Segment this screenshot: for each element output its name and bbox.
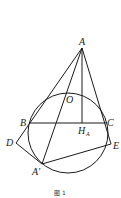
label-D: D (5, 137, 14, 148)
geometry-figure: A O B C H A D E A' 图 1 (0, 0, 121, 198)
label-C: C (107, 117, 114, 128)
line-AE (82, 48, 111, 144)
label-A: A (78, 36, 86, 47)
figure-caption: 图 1 (54, 189, 66, 197)
segment-DA-prime (16, 143, 42, 164)
label-H-subscript: A (85, 131, 90, 137)
label-A-prime: A' (31, 166, 41, 177)
label-O: O (66, 94, 73, 105)
segment-A-prime-E (42, 144, 111, 164)
label-H: H (77, 125, 86, 136)
label-B: B (20, 117, 26, 128)
line-AA-prime (42, 48, 82, 164)
label-E: E (112, 140, 119, 151)
circumcircle (28, 93, 108, 173)
